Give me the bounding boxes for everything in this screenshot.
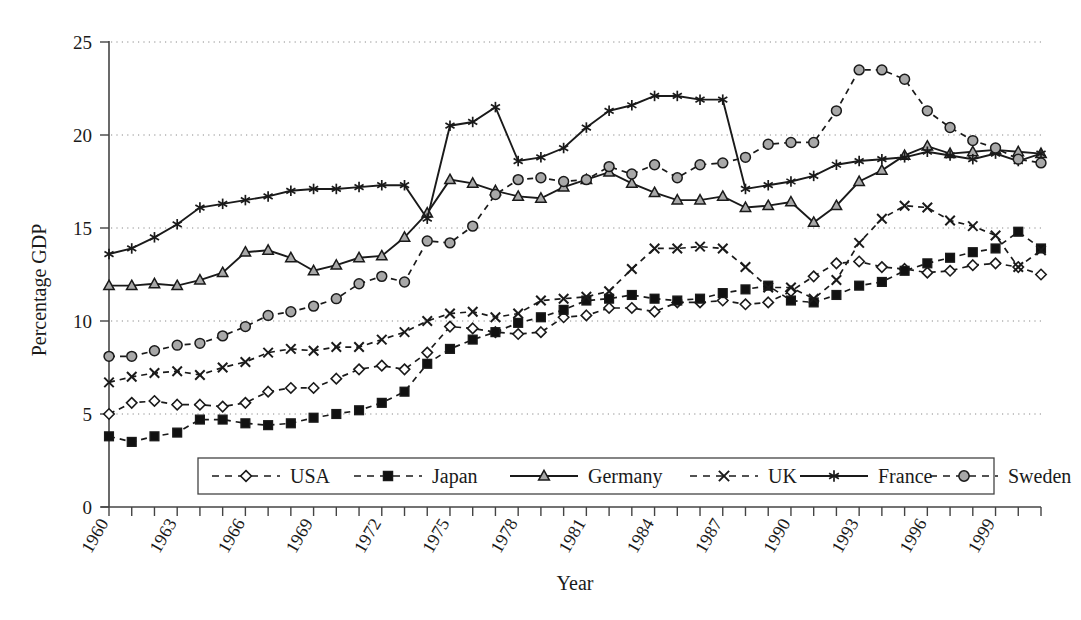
legend-label-sweden: Sweden (1008, 465, 1071, 487)
marker-japan-1964 (196, 415, 205, 424)
marker-sweden-2000 (1013, 154, 1023, 164)
marker-japan-1966 (241, 419, 250, 428)
marker-sweden-1983 (627, 169, 637, 179)
marker-japan-1996 (923, 259, 932, 268)
marker-sweden-1991 (809, 138, 819, 148)
marker-sweden-1975 (445, 238, 455, 248)
marker-japan-1990 (787, 296, 796, 305)
marker-sweden-1968 (286, 307, 296, 317)
marker-japan-1994 (877, 278, 886, 287)
marker-japan-1987 (718, 289, 727, 298)
marker-sweden-1963 (172, 340, 182, 350)
y-tick-label-25: 25 (73, 32, 92, 53)
marker-japan-2000 (1014, 227, 1023, 236)
marker-sweden-1989 (763, 139, 773, 149)
chart-legend: USAJapanGermanyUKFranceSweden (198, 458, 1071, 494)
y-tick-label-15: 15 (73, 218, 92, 239)
marker-sweden-1988 (741, 152, 751, 162)
legend-label-japan: Japan (432, 465, 478, 488)
marker-japan-1995 (900, 266, 909, 275)
marker-japan-1998 (968, 248, 977, 257)
marker-sweden-1985 (672, 173, 682, 183)
marker-sweden-1994 (877, 65, 887, 75)
x-axis-title: Year (557, 572, 594, 594)
marker-sweden-1982 (604, 162, 614, 172)
y-tick-label-5: 5 (83, 404, 93, 425)
marker-sweden-1965 (218, 331, 228, 341)
marker-japan-1963 (173, 428, 182, 437)
marker-sweden-1973 (400, 277, 410, 287)
marker-japan-1979 (536, 313, 545, 322)
marker-sweden-1997 (945, 123, 955, 133)
marker-japan-1999 (991, 244, 1000, 253)
marker-japan-1988 (741, 285, 750, 294)
marker-japan-1977 (491, 328, 500, 337)
marker-sweden-1962 (150, 346, 160, 356)
marker-sweden-1964 (195, 338, 205, 348)
marker-japan-1986 (696, 294, 705, 303)
marker-japan-1968 (286, 419, 295, 428)
y-axis-title: Percentage GDP (28, 224, 51, 357)
marker-sweden-1990 (786, 138, 796, 148)
marker-japan-1973 (400, 387, 409, 396)
marker-japan-1978 (514, 318, 523, 327)
marker-sweden-1984 (650, 160, 660, 170)
marker-sweden-1966 (240, 322, 250, 332)
y-tick-label-20: 20 (73, 125, 92, 146)
marker-sweden-1969 (309, 301, 319, 311)
marker-japan-1961 (127, 437, 136, 446)
marker-japan-1970 (332, 410, 341, 419)
marker-japan-1972 (377, 398, 386, 407)
marker-sweden-1967 (263, 310, 273, 320)
marker-sweden-1979 (536, 173, 546, 183)
marker-japan-1997 (946, 253, 955, 262)
marker-sweden-1981 (581, 175, 591, 185)
marker-japan-1969 (309, 413, 318, 422)
marker-sweden-1977 (490, 190, 500, 200)
marker-japan-1965 (218, 415, 227, 424)
marker-sweden-1995 (900, 74, 910, 84)
marker-sweden-1970 (331, 294, 341, 304)
legend-label-germany: Germany (588, 465, 662, 488)
marker-sweden-1976 (468, 221, 478, 231)
marker-sweden-1974 (422, 236, 432, 246)
marker-japan-1962 (150, 432, 159, 441)
marker-japan-1974 (423, 359, 432, 368)
legend-sample-marker-sweden (959, 471, 969, 481)
marker-sweden-1996 (922, 106, 932, 116)
chart-canvas: 0510152025 19601963196619691972197519781… (0, 0, 1081, 620)
marker-sweden-1999 (991, 143, 1001, 153)
marker-japan-1984 (650, 294, 659, 303)
marker-sweden-2001 (1036, 158, 1046, 168)
marker-japan-1992 (832, 291, 841, 300)
marker-japan-1980 (559, 305, 568, 314)
marker-sweden-1978 (513, 175, 523, 185)
marker-sweden-1986 (695, 160, 705, 170)
legend-sample-marker-japan (383, 471, 392, 480)
marker-japan-1976 (468, 335, 477, 344)
gdp-percentage-line-chart: 0510152025 19601963196619691972197519781… (0, 0, 1081, 620)
legend-label-uk: UK (768, 465, 797, 487)
marker-japan-1967 (264, 421, 273, 430)
y-tick-label-0: 0 (83, 497, 93, 518)
marker-sweden-1998 (968, 136, 978, 146)
marker-sweden-1971 (354, 279, 364, 289)
marker-japan-1975 (446, 344, 455, 353)
marker-sweden-1992 (831, 106, 841, 116)
marker-sweden-1960 (104, 351, 114, 361)
marker-sweden-1993 (854, 65, 864, 75)
y-tick-label-10: 10 (73, 311, 92, 332)
marker-japan-1960 (105, 432, 114, 441)
marker-japan-1971 (355, 406, 364, 415)
marker-japan-1985 (673, 296, 682, 305)
legend-label-france: France (878, 465, 933, 487)
legend-label-usa: USA (290, 465, 331, 487)
marker-sweden-1972 (377, 271, 387, 281)
marker-sweden-1987 (718, 158, 728, 168)
marker-sweden-1980 (559, 177, 569, 187)
marker-japan-1993 (855, 281, 864, 290)
marker-sweden-1961 (127, 351, 137, 361)
marker-japan-1983 (627, 291, 636, 300)
